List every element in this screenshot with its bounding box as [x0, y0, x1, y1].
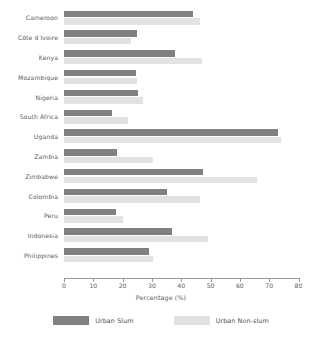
bar-urban-non-slum: [64, 157, 153, 163]
x-tick: [211, 278, 212, 282]
bar-pair: [64, 87, 322, 107]
x-tick-label: 20: [113, 282, 133, 290]
x-tick: [93, 278, 94, 282]
x-tick: [269, 278, 270, 282]
legend-swatch-urban-slum: [53, 316, 89, 325]
bar-pair: [64, 226, 322, 246]
bar-urban-slum: [64, 169, 203, 175]
bar-rows: CameroonCôte d IvoireKenyaMozambiqueNige…: [0, 8, 322, 265]
bar-urban-non-slum: [64, 216, 123, 222]
bar-pair: [64, 127, 322, 147]
bar-urban-non-slum: [64, 196, 200, 202]
bar-pair: [64, 166, 322, 186]
category-label: Colombia: [0, 193, 58, 200]
bar-row: South Africa: [0, 107, 322, 127]
category-label: Philippines: [0, 252, 58, 259]
category-label: Cameroon: [0, 14, 58, 21]
bar-pair: [64, 28, 322, 48]
category-label: Zimbabwe: [0, 173, 58, 180]
bar-urban-slum: [64, 149, 117, 155]
bar-urban-slum: [64, 248, 149, 254]
legend-label-urban-slum: Urban Slum: [95, 317, 133, 325]
x-tick-label: 50: [201, 282, 221, 290]
bar-pair: [64, 147, 322, 167]
bar-urban-slum: [64, 209, 116, 215]
category-label: Zambia: [0, 153, 58, 160]
bar-pair: [64, 206, 322, 226]
bar-urban-slum: [64, 189, 167, 195]
bar-row: Zimbabwe: [0, 166, 322, 186]
legend-label-urban-non-slum: Urban Non-slum: [216, 317, 269, 325]
category-label: Indonesia: [0, 232, 58, 239]
category-label: Peru: [0, 212, 58, 219]
chart-legend: Urban Slum Urban Non-slum: [0, 316, 322, 325]
bar-row: Indonesia: [0, 226, 322, 246]
bar-urban-slum: [64, 50, 175, 56]
x-tick-label: 10: [83, 282, 103, 290]
bar-urban-non-slum: [64, 78, 137, 84]
x-tick: [299, 278, 300, 282]
bar-urban-non-slum: [64, 58, 202, 64]
x-tick-label: 0: [54, 282, 74, 290]
bar-urban-non-slum: [64, 38, 131, 44]
bar-urban-slum: [64, 30, 137, 36]
x-tick: [240, 278, 241, 282]
bar-urban-non-slum: [64, 177, 257, 183]
bar-row: Cameroon: [0, 8, 322, 28]
x-tick-label: 80: [289, 282, 309, 290]
x-tick: [181, 278, 182, 282]
bar-urban-slum: [64, 70, 136, 76]
bar-urban-slum: [64, 110, 112, 116]
x-tick: [123, 278, 124, 282]
bar-pair: [64, 67, 322, 87]
bar-row: Zambia: [0, 147, 322, 167]
bar-urban-slum: [64, 11, 193, 17]
bar-urban-slum: [64, 90, 138, 96]
bar-pair: [64, 246, 322, 266]
x-tick: [64, 278, 65, 282]
bar-pair: [64, 48, 322, 68]
category-label: Nigeria: [0, 94, 58, 101]
category-label: Côte d Ivoire: [0, 34, 58, 41]
x-tick: [152, 278, 153, 282]
bar-row: Côte d Ivoire: [0, 28, 322, 48]
x-tick-label: 40: [171, 282, 191, 290]
bar-pair: [64, 8, 322, 28]
category-label: Mozambique: [0, 74, 58, 81]
legend-item-urban-slum: Urban Slum: [53, 316, 133, 325]
bar-row: Philippines: [0, 246, 322, 266]
category-label: Uganda: [0, 133, 58, 140]
category-label: Kenya: [0, 54, 58, 61]
category-label: South Africa: [0, 113, 58, 120]
bar-row: Nigeria: [0, 87, 322, 107]
legend-swatch-urban-non-slum: [174, 316, 210, 325]
bar-urban-non-slum: [64, 236, 208, 242]
bar-row: Mozambique: [0, 67, 322, 87]
bar-urban-slum: [64, 228, 172, 234]
bar-row: Colombia: [0, 186, 322, 206]
x-axis-title: Percentage (%): [0, 294, 322, 301]
bar-chart: CameroonCôte d IvoireKenyaMozambiqueNige…: [0, 0, 322, 346]
plot-area: CameroonCôte d IvoireKenyaMozambiqueNige…: [0, 0, 322, 300]
bar-pair: [64, 186, 322, 206]
legend-item-urban-non-slum: Urban Non-slum: [174, 316, 269, 325]
bar-row: Peru: [0, 206, 322, 226]
bar-urban-slum: [64, 129, 278, 135]
bar-row: Uganda: [0, 127, 322, 147]
x-tick-label: 60: [230, 282, 250, 290]
bar-row: Kenya: [0, 48, 322, 68]
bar-urban-non-slum: [64, 18, 200, 24]
bar-pair: [64, 107, 322, 127]
bar-urban-non-slum: [64, 137, 281, 143]
bar-urban-non-slum: [64, 117, 128, 123]
bar-urban-non-slum: [64, 97, 143, 103]
x-tick-label: 30: [142, 282, 162, 290]
x-tick-label: 70: [259, 282, 279, 290]
bar-urban-non-slum: [64, 256, 153, 262]
